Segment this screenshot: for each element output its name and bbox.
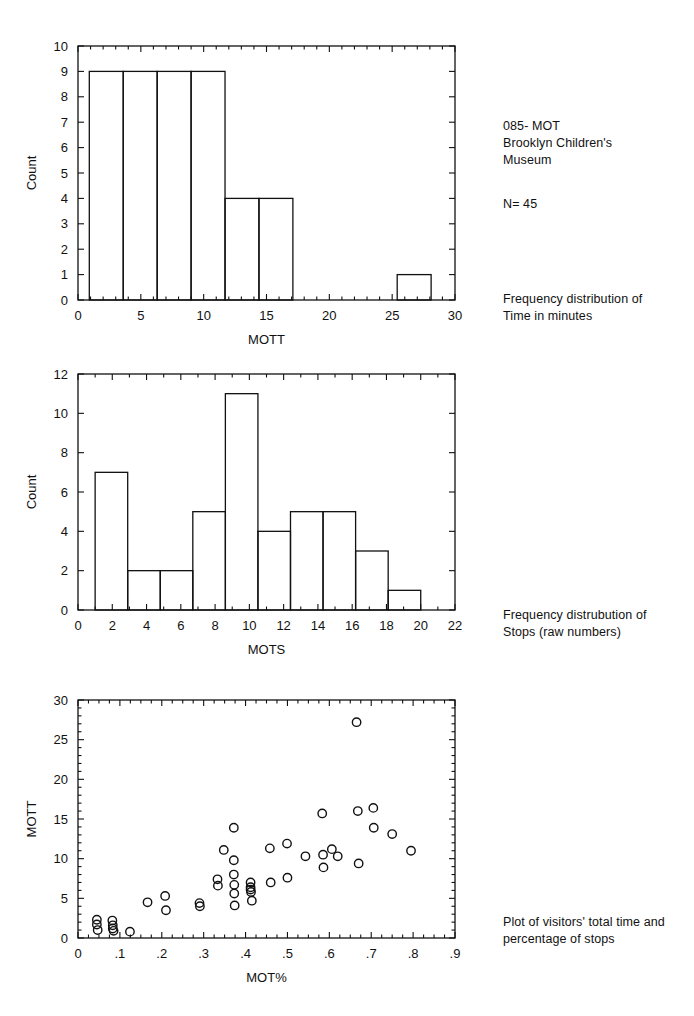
x-tick-label: 20: [413, 618, 427, 633]
y-tick-label: 2: [61, 242, 68, 257]
x-tick-label: 30: [448, 308, 462, 323]
histogram-bar: [225, 394, 258, 610]
scatter-point: [319, 851, 327, 859]
histogram-bar: [388, 590, 421, 610]
x-tick-label: .3: [198, 946, 209, 961]
x-tick-label: 0: [74, 618, 81, 633]
histogram-bar: [259, 198, 293, 300]
x-axis-title: MOTS: [248, 642, 286, 657]
scatter-point: [143, 898, 151, 906]
histogram-bar: [95, 472, 128, 610]
figure-3-canvas: 0.1.2.3.4.5.6.7.8.9051015202530MOT%MOTT: [0, 682, 500, 992]
scatter-point: [334, 852, 342, 860]
scatter-point: [214, 881, 222, 889]
scatter-point: [370, 824, 378, 832]
y-tick-label: 5: [61, 166, 68, 181]
histogram-bar: [191, 71, 225, 300]
y-tick-label: 7: [61, 115, 68, 130]
x-tick-labels: 0.1.2.3.4.5.6.7.8.9: [74, 946, 460, 961]
scatter-point: [354, 859, 362, 867]
x-axis-title: MOTT: [248, 332, 285, 347]
y-tick-label: 20: [54, 772, 68, 787]
x-axis-title: MOT%: [246, 970, 287, 985]
scatter-point: [230, 901, 238, 909]
x-tick-label: 25: [385, 308, 399, 323]
y-tick-label: 30: [54, 693, 68, 708]
x-tick-label: 20: [322, 308, 336, 323]
y-tick-label: 8: [61, 445, 68, 460]
x-tick-label: 2: [109, 618, 116, 633]
scatter-point: [354, 807, 362, 815]
y-tick-label: 10: [54, 406, 68, 421]
x-tick-label: .1: [114, 946, 125, 961]
y-tick-label: 10: [54, 851, 68, 866]
histogram-bars: [95, 394, 421, 610]
scatter-point: [230, 824, 238, 832]
y-tick-labels: 051015202530: [54, 693, 68, 946]
document-page: 051015202530012345678910MOTTCount 024681…: [0, 0, 694, 1016]
scatter-point: [319, 863, 327, 871]
y-tick-label: 0: [61, 293, 68, 308]
scatter-point: [230, 889, 238, 897]
y-tick-label: 9: [61, 64, 68, 79]
x-tick-label: 10: [242, 618, 256, 633]
histogram-bars: [89, 71, 431, 300]
y-tick-label: 1: [61, 267, 68, 282]
x-tick-labels: 0246810121416182022: [74, 618, 462, 633]
y-tick-labels: 012345678910: [54, 39, 68, 308]
histogram-bar: [356, 551, 389, 610]
scatter-point: [352, 718, 360, 726]
figure-2-canvas: 0246810121416182022024681012MOTSCount: [0, 358, 500, 668]
x-tick-label: 15: [259, 308, 273, 323]
y-axis-title: Count: [24, 474, 39, 509]
y-axis-title: Count: [24, 155, 39, 190]
plot-frame: [78, 46, 455, 300]
y-tick-labels: 024681012: [54, 367, 68, 618]
histogram-bar: [323, 512, 356, 610]
x-axis-ticks: [78, 46, 455, 300]
x-tick-label: 4: [143, 618, 150, 633]
x-tick-label: .5: [282, 946, 293, 961]
y-tick-label: 10: [54, 39, 68, 54]
y-tick-label: 8: [61, 89, 68, 104]
figure-1-canvas: 051015202530012345678910MOTTCount: [0, 22, 500, 352]
x-tick-label: 0: [74, 308, 81, 323]
y-tick-label: 6: [61, 140, 68, 155]
x-tick-label: 16: [345, 618, 359, 633]
x-tick-label: .4: [240, 946, 251, 961]
x-axis-ticks: [78, 700, 455, 938]
scatter-point: [283, 874, 291, 882]
histogram-bar: [225, 198, 259, 300]
y-tick-label: 4: [61, 524, 68, 539]
x-tick-label: .7: [366, 946, 377, 961]
caption-figure-2: Frequency distrubution of Stops (raw num…: [503, 607, 688, 641]
scatter-point: [220, 846, 228, 854]
figure-mot-scatter: 0.1.2.3.4.5.6.7.8.9051015202530MOT%MOTT: [0, 682, 500, 992]
scatter-point: [230, 881, 238, 889]
y-tick-label: 0: [61, 931, 68, 946]
study-header-note: 085- MOT Brooklyn Children's Museum: [503, 118, 688, 169]
y-tick-label: 5: [61, 891, 68, 906]
sample-size-note: N= 45: [503, 196, 688, 213]
scatter-point: [301, 852, 309, 860]
y-tick-label: 25: [54, 732, 68, 747]
scatter-point: [328, 845, 336, 853]
x-tick-label: 6: [177, 618, 184, 633]
scatter-point: [407, 847, 415, 855]
x-tick-label: .6: [324, 946, 335, 961]
scatter-point: [230, 856, 238, 864]
scatter-point: [230, 870, 238, 878]
scatter-points: [93, 718, 416, 936]
scatter-point: [318, 809, 326, 817]
scatter-point: [162, 906, 170, 914]
scatter-point: [388, 830, 396, 838]
x-tick-label: 14: [311, 618, 325, 633]
scatter-point: [266, 878, 274, 886]
x-tick-label: 8: [211, 618, 218, 633]
plot-frame: [78, 374, 455, 610]
y-axis-ticks: [78, 700, 455, 938]
y-tick-label: 3: [61, 216, 68, 231]
scatter-point: [266, 844, 274, 852]
histogram-bar: [89, 71, 123, 300]
x-tick-label: .2: [156, 946, 167, 961]
